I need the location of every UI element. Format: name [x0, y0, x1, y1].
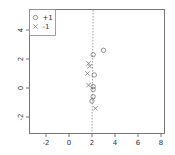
decision-boundary-line: [92, 10, 93, 133]
circle-marker-icon: [91, 95, 95, 99]
x-tick-label: -2: [43, 139, 50, 147]
circle-marker-icon: [91, 87, 95, 91]
y-tick-label: 2: [17, 57, 25, 61]
legend-label: -1: [43, 23, 50, 31]
x-tick-label: 4: [113, 139, 118, 147]
circle-marker-icon: [101, 48, 105, 52]
y-tick-label: 4: [17, 27, 25, 32]
circle-marker-icon: [91, 52, 95, 56]
scatter-plot: -202468-2024+1-1: [0, 0, 175, 155]
circle-marker-icon: [92, 73, 96, 77]
x-marker-icon: [85, 71, 89, 75]
y-tick-label: 0: [17, 86, 25, 90]
x-tick-label: 2: [90, 139, 94, 147]
legend-label: +1: [43, 14, 53, 22]
x-tick-label: 8: [159, 139, 163, 147]
x-marker-icon: [93, 106, 97, 110]
x-tick-label: 0: [67, 139, 71, 147]
x-tick-label: 6: [136, 139, 141, 147]
y-tick-label: -2: [17, 114, 25, 121]
x-marker-icon: [86, 83, 90, 87]
